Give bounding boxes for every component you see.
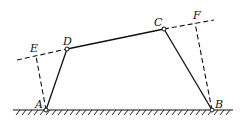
link-C-B xyxy=(164,29,212,110)
linkage-diagram: A B C D E F xyxy=(0,0,245,132)
joint-C xyxy=(162,27,166,31)
line-B-F xyxy=(195,23,212,110)
joint-B xyxy=(210,108,214,112)
dashed-lines xyxy=(17,20,214,110)
link-A-D xyxy=(46,49,67,110)
label-F: F xyxy=(192,9,201,22)
joint-A xyxy=(44,108,48,112)
label-E: E xyxy=(29,42,38,55)
link-D-C xyxy=(67,29,164,49)
label-C: C xyxy=(154,16,163,29)
label-B: B xyxy=(214,98,223,111)
label-D: D xyxy=(62,35,72,48)
line-E-D xyxy=(17,49,67,60)
line-C-F xyxy=(164,20,214,29)
label-A: A xyxy=(34,98,43,111)
